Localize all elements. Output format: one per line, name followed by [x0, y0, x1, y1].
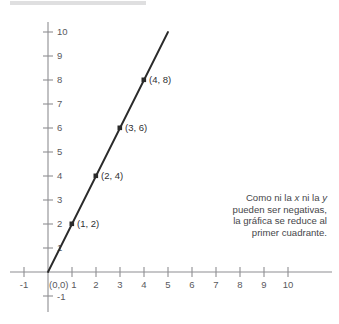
note-line-4: primer cuadrante.	[252, 227, 327, 238]
x-tick-label-4: 4	[141, 279, 146, 290]
note-line-3: la gráfica se reduce al	[233, 215, 327, 226]
x-tick-label-9: 9	[261, 279, 266, 290]
figure-canvas: -1 1 2 3 4 5 6 7 8 9 10 (0,0) -1 1 2 3 4…	[0, 0, 339, 324]
first-quadrant-note: Como ni la x ni la y pueden ser negativa…	[203, 192, 327, 238]
y-tick-label-5: 5	[57, 146, 62, 157]
y-tick-label-6: 6	[57, 122, 62, 133]
x-tick-label-8: 8	[237, 279, 242, 290]
x-tick-label--1: -1	[20, 279, 28, 290]
x-tick-label-1: 1	[71, 279, 76, 290]
x-tick-label-7: 7	[213, 279, 218, 290]
x-tick-label-6: 6	[189, 279, 194, 290]
note-line-1-part-a: Como ni la	[246, 192, 295, 203]
data-point-label-1-2: (1, 2)	[77, 218, 99, 229]
y-tick-label-10: 10	[57, 26, 68, 37]
coordinate-plane: -1 1 2 3 4 5 6 7 8 9 10 (0,0) -1 1 2 3 4…	[0, 0, 339, 324]
y-tick-label-4: 4	[57, 170, 62, 181]
data-point-label-3-6: (3, 6)	[125, 122, 147, 133]
data-point-marker-1-2	[70, 222, 75, 227]
x-tick-label-3: 3	[117, 279, 122, 290]
data-point-label-4-8: (4, 8)	[149, 74, 171, 85]
data-point-label-2-4: (2, 4)	[101, 170, 123, 181]
line-y-equals-2x	[48, 32, 168, 272]
data-point-marker-3-6	[118, 126, 123, 131]
note-variable-y: y	[322, 192, 327, 203]
data-point-marker-2-4	[94, 174, 99, 179]
y-tick-label-2: 2	[57, 218, 62, 229]
y-tick-label-9: 9	[57, 50, 62, 61]
note-line-2: pueden ser negativas,	[233, 204, 327, 215]
origin-label: (0,0)	[49, 279, 69, 290]
y-tick-label--1: -1	[57, 291, 65, 302]
y-tick-label-3: 3	[57, 194, 62, 205]
x-tick-label-2: 2	[93, 279, 98, 290]
y-tick-label-8: 8	[57, 74, 62, 85]
note-line-1-part-b: ni la	[299, 192, 322, 203]
y-tick-label-7: 7	[57, 98, 62, 109]
x-tick-label-10: 10	[283, 279, 294, 290]
data-point-marker-4-8	[142, 78, 147, 83]
x-tick-label-5: 5	[165, 279, 170, 290]
